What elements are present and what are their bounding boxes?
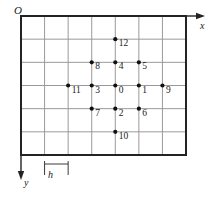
stencil-point-1 <box>137 83 141 87</box>
stencil-point-label-4: 4 <box>119 62 124 72</box>
stencil-point-label-1: 1 <box>142 86 147 96</box>
stencil-point-11 <box>66 83 70 87</box>
stencil-point-label-9: 9 <box>166 86 171 96</box>
stencil-figure: O x y h 0123456789101112 <box>0 0 213 197</box>
stencil-point-label-5: 5 <box>142 62 147 72</box>
stencil-point-6 <box>137 107 141 111</box>
stencil-point-2 <box>113 107 117 111</box>
stencil-point-label-6: 6 <box>142 109 147 119</box>
stencil-point-label-8: 8 <box>95 62 100 72</box>
stencil-point-label-7: 7 <box>95 109 100 119</box>
stencil-point-label-2: 2 <box>119 109 124 119</box>
origin-label: O <box>14 5 22 16</box>
stencil-point-10 <box>113 130 117 134</box>
stencil-point-label-11: 11 <box>72 86 81 96</box>
stencil-point-label-10: 10 <box>119 132 129 142</box>
stencil-point-7 <box>90 107 94 111</box>
stencil-point-4 <box>113 60 117 64</box>
stencil-point-label-0: 0 <box>119 86 124 96</box>
stencil-point-3 <box>90 83 94 87</box>
stencil-point-5 <box>137 60 141 64</box>
stencil-point-12 <box>113 37 117 41</box>
x-axis-label: x <box>200 21 204 31</box>
grid-spacing-label: h <box>48 170 53 180</box>
grid-canvas <box>0 0 213 197</box>
stencil-point-0 <box>113 83 117 87</box>
stencil-point-8 <box>90 60 94 64</box>
stencil-point-label-12: 12 <box>119 39 129 49</box>
stencil-point-label-3: 3 <box>95 86 100 96</box>
stencil-point-9 <box>160 83 164 87</box>
y-axis-label: y <box>24 178 28 188</box>
